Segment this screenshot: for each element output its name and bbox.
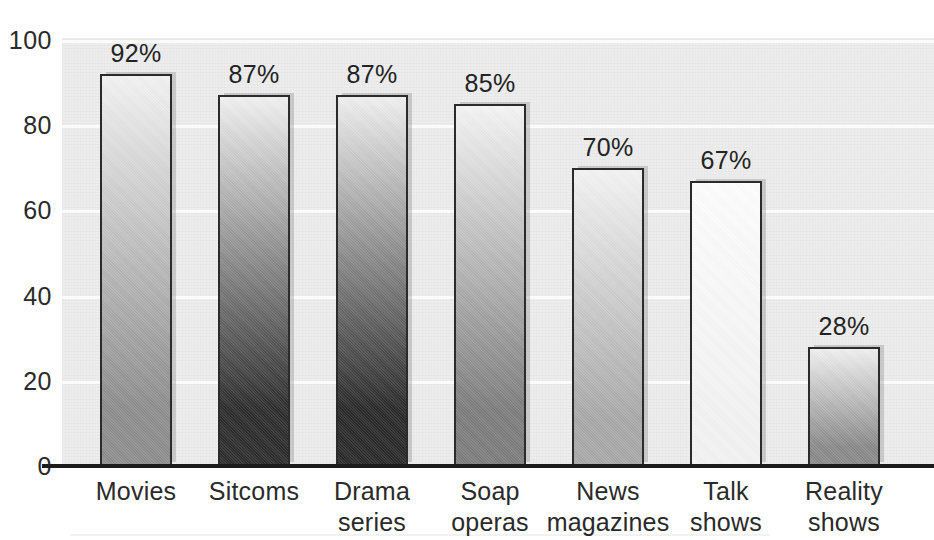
bar-drama-series[interactable] — [336, 95, 408, 466]
y-tick-label-100: 100 — [9, 28, 52, 53]
bar-reality-shows[interactable] — [808, 347, 880, 466]
x-label-line: Reality — [754, 476, 934, 507]
data-label-movies: 92% — [70, 41, 202, 66]
data-label-reality-shows: 28% — [778, 314, 910, 339]
y-tick-label-80: 80 — [23, 113, 52, 138]
x-axis-line — [42, 464, 934, 468]
data-label-soap-operas: 85% — [424, 71, 556, 96]
y-tick-label-20: 20 — [23, 369, 52, 394]
data-label-drama-series: 87% — [306, 62, 438, 87]
chart-page: 100806040200 MoviesSitcomsDramaseriesSoa… — [0, 0, 934, 540]
bar-talk-shows[interactable] — [690, 181, 762, 466]
x-label-line: shows — [754, 507, 934, 538]
bar-sitcoms[interactable] — [218, 95, 290, 466]
bar-soap-operas[interactable] — [454, 104, 526, 466]
x-label-reality-shows: Realityshows — [754, 476, 934, 537]
data-label-talk-shows: 67% — [660, 148, 792, 173]
y-axis: 100806040200 — [0, 0, 52, 540]
data-label-news-magazines: 70% — [542, 135, 674, 160]
bar-movies[interactable] — [100, 74, 172, 466]
plot-area — [62, 38, 934, 466]
y-tick-label-40: 40 — [23, 284, 52, 309]
scan-artifact — [70, 534, 770, 536]
y-tick-label-60: 60 — [23, 198, 52, 223]
data-label-sitcoms: 87% — [188, 62, 320, 87]
bar-news-magazines[interactable] — [572, 168, 644, 466]
